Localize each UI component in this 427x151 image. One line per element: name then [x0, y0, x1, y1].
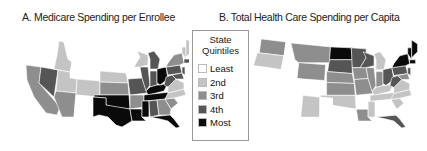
state-CO — [76, 79, 100, 97]
state-FL — [150, 115, 180, 128]
legend-label: 3rd — [210, 90, 224, 101]
swatch-4th — [198, 105, 207, 114]
state-NY — [166, 53, 184, 67]
legend-item-least: Least — [193, 62, 248, 76]
state-MT — [64, 42, 104, 62]
state-ND — [103, 46, 126, 59]
state-NE — [100, 71, 128, 83]
state-IN — [376, 72, 383, 88]
swatch-most — [198, 118, 207, 127]
legend-item-4th: 4th — [193, 103, 248, 117]
state-SD — [101, 59, 126, 73]
legend-item-2nd: 2nd — [193, 76, 248, 90]
state-MI — [374, 52, 386, 70]
swatch-2nd — [198, 78, 207, 87]
state-MT — [291, 43, 331, 63]
legend-title-line2: Quintiles — [193, 45, 248, 56]
swatch-3rd — [198, 91, 207, 100]
legend-title: State Quintiles — [193, 34, 248, 56]
legend-item-most: Most — [193, 116, 248, 130]
state-MI — [148, 51, 160, 69]
legend-state-quintiles: State Quintiles Least 2nd 3rd 4th Most — [192, 30, 249, 141]
state-MS — [142, 101, 149, 117]
state-ME — [186, 39, 189, 57]
state-MS — [368, 101, 375, 117]
legend-item-3rd: 3rd — [193, 89, 248, 103]
state-WY — [297, 63, 326, 81]
legend-label: Least — [210, 63, 233, 74]
state-NY — [392, 54, 410, 68]
state-ND — [330, 47, 353, 60]
map-total-health-spending — [247, 36, 419, 128]
state-NM — [74, 95, 94, 117]
panel-b-title: B. Total Health Care Spending per Capita — [219, 11, 399, 23]
map-medicare-spending — [24, 35, 189, 128]
state-KS — [100, 82, 129, 95]
state-IA — [126, 67, 142, 79]
state-KS — [327, 82, 356, 95]
legend-title-line1: State — [193, 34, 248, 45]
state-WY — [70, 62, 99, 80]
state-ME — [412, 40, 418, 58]
state-SD — [328, 60, 353, 74]
swatch-least — [198, 64, 207, 73]
state-FL — [376, 115, 406, 128]
state-IN — [150, 71, 157, 87]
state-MA — [410, 60, 416, 64]
state-MA — [184, 59, 189, 63]
state-NM — [301, 95, 321, 117]
legend-label: Most — [210, 117, 231, 128]
legend-label: 2nd — [210, 77, 226, 88]
state-CO — [303, 80, 327, 98]
panel-a-title: A. Medicare Spending per Enrollee — [22, 11, 175, 23]
state-IA — [352, 68, 368, 80]
legend-label: 4th — [210, 104, 223, 115]
state-NE — [327, 72, 355, 84]
